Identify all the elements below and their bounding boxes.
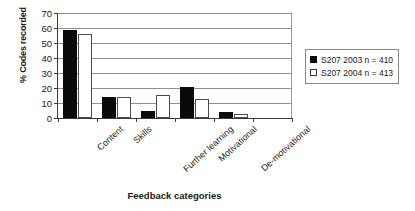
y-axis-tick-label: 0 <box>47 113 52 124</box>
bar <box>141 111 156 119</box>
chart-legend: S207 2003 n = 410 S207 2004 n = 413 <box>305 49 399 84</box>
legend-label-2003: S207 2003 n = 410 <box>321 55 393 65</box>
y-axis-tick <box>54 88 58 89</box>
y-axis-tick-label: 40 <box>41 53 52 64</box>
x-axis-title: Feedback categories <box>57 190 292 201</box>
plot-area: 010203040506070 <box>57 13 292 119</box>
y-axis-tick-label: 30 <box>41 68 52 79</box>
y-axis-tick <box>54 28 58 29</box>
y-axis-tick-label: 20 <box>41 83 52 94</box>
x-axis-tick <box>136 118 137 122</box>
y-axis-tick <box>54 13 58 14</box>
gridline <box>58 103 292 104</box>
x-axis-tick <box>58 118 59 122</box>
gridline <box>58 73 292 74</box>
y-axis-tick <box>54 103 58 104</box>
y-axis-tick-label: 10 <box>41 98 52 109</box>
y-axis-tick <box>54 58 58 59</box>
legend-swatch-2003-icon <box>310 56 317 63</box>
bar <box>219 112 234 118</box>
bar <box>117 97 132 118</box>
bar <box>195 99 210 119</box>
y-axis-title: % Codes recorded <box>18 0 28 100</box>
y-axis-tick-label: 70 <box>41 8 52 19</box>
bar-chart: % Codes recorded 010203040506070 Feedbac… <box>0 0 415 211</box>
bar <box>234 114 249 119</box>
gridline <box>58 28 292 29</box>
bar <box>102 97 117 118</box>
x-axis-tick <box>175 118 176 122</box>
y-axis-tick <box>54 73 58 74</box>
gridline <box>58 58 292 59</box>
legend-label-2004: S207 2004 n = 413 <box>321 68 393 78</box>
legend-swatch-2004-icon <box>310 69 317 76</box>
legend-item: S207 2004 n = 413 <box>310 66 393 79</box>
y-axis-tick <box>54 43 58 44</box>
bar <box>180 87 195 119</box>
x-axis-tick <box>97 118 98 122</box>
x-axis-tick <box>214 118 215 122</box>
gridline <box>58 88 292 89</box>
x-axis-category-label: De-motivational <box>259 124 312 173</box>
bar <box>78 34 93 118</box>
x-axis-category-label: Skills <box>132 124 154 145</box>
gridline <box>58 43 292 44</box>
x-axis-tick <box>292 118 293 122</box>
gridline <box>58 13 292 14</box>
y-axis-tick-label: 50 <box>41 38 52 49</box>
legend-item: S207 2003 n = 410 <box>310 53 393 66</box>
bar <box>63 30 78 119</box>
x-axis-category-label: Content <box>96 124 126 153</box>
x-axis-tick <box>253 118 254 122</box>
bar <box>156 95 171 118</box>
y-axis-tick-label: 60 <box>41 23 52 34</box>
